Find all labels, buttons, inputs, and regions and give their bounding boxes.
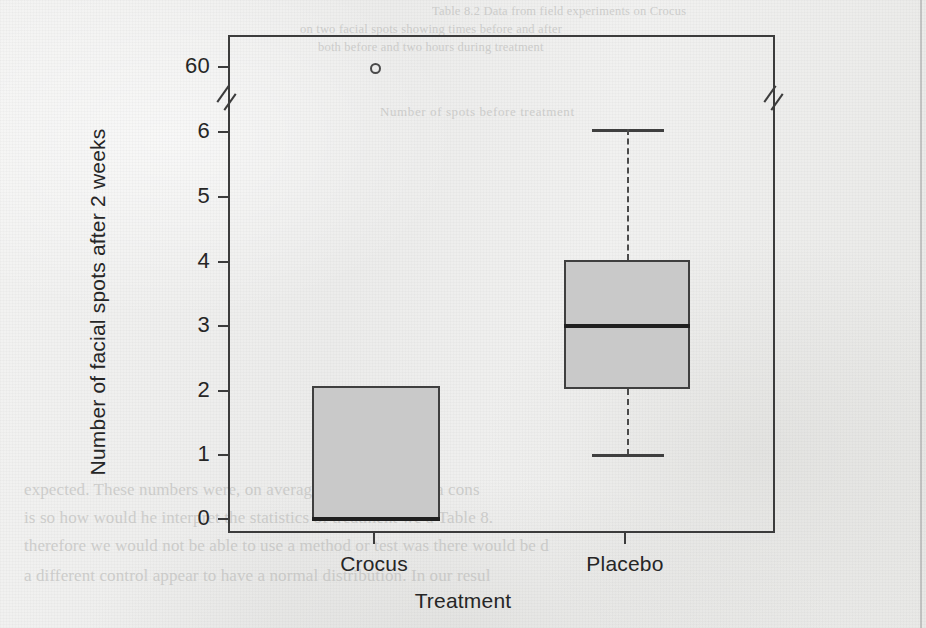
- bleed-through-line-top-1: Table 8.2 Data from field experiments on…: [432, 4, 686, 19]
- plot-frame: [228, 35, 775, 533]
- scan-edge-right: [920, 0, 922, 628]
- y-tick-60: [218, 66, 228, 68]
- boxplot-crocus-median: [312, 517, 440, 521]
- x-tick-label-crocus: Crocus: [294, 552, 454, 576]
- x-tick-label-placebo: Placebo: [545, 552, 705, 576]
- y-tick-1: [218, 454, 228, 456]
- y-tick-label-6: 6: [197, 120, 210, 142]
- x-tick-crocus: [373, 533, 375, 544]
- y-tick-4: [218, 261, 228, 263]
- y-tick-3: [218, 325, 228, 327]
- boxplot-crocus-outlier-60: [370, 63, 381, 74]
- x-axis-title: Treatment: [0, 589, 926, 613]
- boxplot-placebo-lower-whisker-cap: [592, 454, 664, 457]
- y-tick-2: [218, 390, 228, 392]
- bleed-through-line-bottom-3: therefore we would not be able to use a …: [24, 536, 549, 556]
- y-tick-label-5: 5: [197, 185, 210, 207]
- y-tick-label-60: 60: [185, 55, 210, 77]
- y-axis-title: Number of facial spots after 2 weeks: [86, 122, 110, 482]
- y-tick-label-4: 4: [197, 250, 210, 272]
- boxplot-placebo-upper-whisker: [627, 129, 629, 260]
- boxplot-placebo-lower-whisker: [627, 389, 629, 455]
- y-tick-label-2: 2: [197, 379, 210, 401]
- boxplot-placebo-median: [564, 324, 690, 328]
- y-tick-label-3: 3: [197, 314, 210, 336]
- scanned-figure-page: Table 8.2 Data from field experiments on…: [0, 0, 926, 628]
- y-tick-0: [218, 518, 228, 520]
- scan-edge-left: [12, 0, 14, 628]
- y-tick-label-0: 0: [197, 507, 210, 529]
- x-tick-placebo: [624, 533, 626, 544]
- y-tick-5: [218, 196, 228, 198]
- boxplot-crocus-box: [312, 386, 440, 519]
- y-tick-label-1: 1: [197, 443, 210, 465]
- y-tick-6: [218, 131, 228, 133]
